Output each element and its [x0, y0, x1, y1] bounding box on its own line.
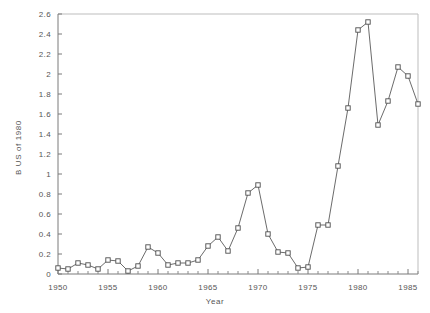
data-point-marker: [286, 251, 290, 255]
y-tick-label: 2.4: [39, 30, 51, 39]
data-point-marker: [56, 266, 60, 270]
x-tick-label: 1950: [48, 283, 68, 292]
data-point-marker: [356, 28, 360, 32]
data-point-marker: [206, 244, 210, 248]
y-tick-label: 0.6: [39, 210, 51, 219]
data-point-marker: [136, 264, 140, 268]
data-line: [58, 22, 418, 271]
y-tick-label: 1.8: [39, 90, 51, 99]
data-point-marker: [316, 223, 320, 227]
plot-area: 00.20.40.60.811.21.41.61.822.22.42.61950…: [0, 0, 430, 313]
x-tick-label: 1955: [98, 283, 118, 292]
x-tick-label: 1980: [348, 283, 368, 292]
data-point-marker: [166, 263, 170, 267]
data-point-marker: [66, 267, 70, 271]
y-tick-label: 0.8: [39, 190, 51, 199]
data-point-marker: [146, 245, 150, 249]
data-point-marker: [176, 261, 180, 265]
axis-lines: [58, 14, 418, 274]
y-tick-label: 0: [46, 270, 51, 279]
data-point-marker: [386, 99, 390, 103]
y-tick-label: 2: [46, 70, 51, 79]
y-tick-label: 1.4: [39, 130, 51, 139]
data-point-marker: [306, 265, 310, 269]
data-point-marker: [406, 74, 410, 78]
data-point-marker: [226, 249, 230, 253]
y-tick-label: 0.2: [39, 250, 51, 259]
data-point-marker: [186, 261, 190, 265]
data-point-marker: [96, 267, 100, 271]
y-tick-label: 2.6: [39, 10, 51, 19]
y-tick-label: 2.2: [39, 50, 51, 59]
data-point-marker: [376, 123, 380, 127]
data-point-marker: [216, 235, 220, 239]
data-point-marker: [366, 20, 370, 24]
y-tick-label: 1.2: [39, 150, 51, 159]
data-point-marker: [256, 183, 260, 187]
data-point-marker: [296, 266, 300, 270]
data-point-marker: [236, 226, 240, 230]
y-tick-label: 0.4: [39, 230, 51, 239]
x-tick-label: 1960: [148, 283, 168, 292]
data-point-marker: [156, 251, 160, 255]
data-point-marker: [116, 259, 120, 263]
data-point-marker: [276, 250, 280, 254]
x-tick-label: 1965: [198, 283, 218, 292]
data-point-marker: [246, 191, 250, 195]
x-tick-label: 1985: [398, 283, 418, 292]
data-point-marker: [266, 232, 270, 236]
data-point-marker: [76, 261, 80, 265]
y-tick-label: 1.6: [39, 110, 51, 119]
data-point-marker: [126, 269, 130, 273]
x-tick-label: 1975: [298, 283, 318, 292]
data-point-marker: [86, 263, 90, 267]
plot-frame: [58, 14, 418, 274]
data-point-marker: [396, 65, 400, 69]
data-point-marker: [346, 106, 350, 110]
data-point-marker: [106, 258, 110, 262]
x-tick-label: 1970: [248, 283, 268, 292]
data-point-marker: [326, 223, 330, 227]
data-point-marker: [416, 102, 420, 106]
data-point-marker: [196, 258, 200, 262]
data-point-marker: [336, 164, 340, 168]
chart-figure: B US of 1980 Year 00.20.40.60.811.21.41.…: [0, 0, 430, 313]
y-tick-label: 1: [46, 170, 51, 179]
